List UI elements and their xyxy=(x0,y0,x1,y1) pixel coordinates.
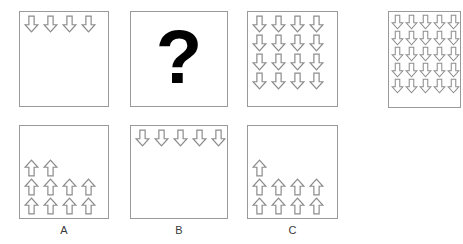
arrow-down-icon xyxy=(135,129,150,147)
option-label-b: B xyxy=(130,224,228,236)
arrow-grid-option-a xyxy=(24,159,96,215)
arrow-down-icon xyxy=(43,15,58,33)
arrow-down-icon xyxy=(211,129,226,147)
arrow-row xyxy=(252,34,324,52)
arrow-row xyxy=(252,197,324,215)
arrow-row xyxy=(24,159,96,177)
sequence-panel-2-question[interactable]: ? xyxy=(130,11,228,107)
arrow-up-icon xyxy=(252,159,267,177)
option-panel-b[interactable] xyxy=(130,125,228,219)
arrow-row xyxy=(252,15,324,33)
arrow-up-icon xyxy=(252,197,267,215)
option-panel-c[interactable] xyxy=(247,125,338,219)
arrow-down-icon xyxy=(252,34,267,52)
arrow-down-icon xyxy=(290,53,305,71)
option-label-c: C xyxy=(247,224,338,236)
arrow-down-icon xyxy=(419,30,432,46)
arrow-down-icon xyxy=(271,15,286,33)
arrow-row xyxy=(24,197,96,215)
arrow-row xyxy=(24,178,96,196)
arrow-up-icon xyxy=(24,178,39,196)
question-mark-symbol: ? xyxy=(131,12,227,106)
arrow-down-icon xyxy=(405,62,418,78)
arrow-down-icon xyxy=(433,14,446,30)
arrow-down-icon xyxy=(173,129,188,147)
arrow-up-icon xyxy=(271,178,286,196)
arrow-down-icon xyxy=(405,30,418,46)
arrow-down-icon xyxy=(24,15,39,33)
sequence-panel-3[interactable] xyxy=(247,11,338,107)
arrow-down-icon xyxy=(271,72,286,90)
arrow-up-icon xyxy=(290,178,305,196)
arrow-down-icon xyxy=(447,78,460,94)
arrow-down-icon xyxy=(419,62,432,78)
arrow-up-icon xyxy=(62,178,77,196)
option-label-a: A xyxy=(19,224,109,236)
arrow-down-icon xyxy=(391,14,404,30)
arrow-down-icon xyxy=(391,78,404,94)
sequence-panel-4[interactable] xyxy=(388,11,461,108)
arrow-up-icon xyxy=(81,197,96,215)
arrow-row xyxy=(391,78,460,94)
arrow-down-icon xyxy=(405,46,418,62)
arrow-down-icon xyxy=(252,72,267,90)
arrow-down-icon xyxy=(309,15,324,33)
arrow-down-icon xyxy=(447,46,460,62)
sequence-panel-1[interactable] xyxy=(19,11,109,107)
arrow-grid-panel-3 xyxy=(252,15,324,90)
arrow-down-icon xyxy=(252,53,267,71)
arrow-down-icon xyxy=(419,78,432,94)
arrow-down-icon xyxy=(309,72,324,90)
arrow-down-icon xyxy=(309,53,324,71)
arrow-grid-panel-4 xyxy=(391,14,460,94)
arrow-down-icon xyxy=(433,78,446,94)
arrow-down-icon xyxy=(433,62,446,78)
arrow-row xyxy=(252,72,324,90)
arrow-down-icon xyxy=(290,15,305,33)
arrow-down-icon xyxy=(252,15,267,33)
arrow-up-icon xyxy=(252,178,267,196)
arrow-down-icon xyxy=(433,46,446,62)
arrow-up-icon xyxy=(271,197,286,215)
arrow-grid-panel-1 xyxy=(24,15,96,33)
arrow-row xyxy=(252,178,324,196)
arrow-grid-option-b xyxy=(135,129,226,147)
option-panel-a[interactable] xyxy=(19,125,109,219)
arrow-row xyxy=(391,14,460,30)
arrow-down-icon xyxy=(405,14,418,30)
arrow-down-icon xyxy=(81,15,96,33)
arrow-down-icon xyxy=(391,30,404,46)
arrow-down-icon xyxy=(290,72,305,90)
arrow-row xyxy=(24,15,96,33)
arrow-down-icon xyxy=(192,129,207,147)
arrow-down-icon xyxy=(447,62,460,78)
arrow-down-icon xyxy=(433,30,446,46)
arrow-up-icon xyxy=(81,178,96,196)
arrow-down-icon xyxy=(271,53,286,71)
arrow-row xyxy=(252,159,324,177)
arrow-down-icon xyxy=(391,46,404,62)
arrow-down-icon xyxy=(290,34,305,52)
arrow-up-icon xyxy=(24,159,39,177)
arrow-down-icon xyxy=(419,14,432,30)
arrow-row xyxy=(252,53,324,71)
arrow-down-icon xyxy=(271,34,286,52)
arrow-up-icon xyxy=(43,197,58,215)
arrow-down-icon xyxy=(447,30,460,46)
arrow-down-icon xyxy=(154,129,169,147)
arrow-grid-option-c xyxy=(252,159,324,215)
arrow-down-icon xyxy=(391,62,404,78)
arrow-down-icon xyxy=(405,78,418,94)
arrow-down-icon xyxy=(419,46,432,62)
arrow-down-icon xyxy=(309,34,324,52)
arrow-down-icon xyxy=(447,14,460,30)
arrow-up-icon xyxy=(43,159,58,177)
arrow-down-icon xyxy=(62,15,77,33)
arrow-row xyxy=(391,30,460,46)
arrow-up-icon xyxy=(309,197,324,215)
arrow-up-icon xyxy=(62,197,77,215)
arrow-up-icon xyxy=(24,197,39,215)
arrow-up-icon xyxy=(309,178,324,196)
arrow-row xyxy=(391,62,460,78)
arrow-row xyxy=(391,46,460,62)
